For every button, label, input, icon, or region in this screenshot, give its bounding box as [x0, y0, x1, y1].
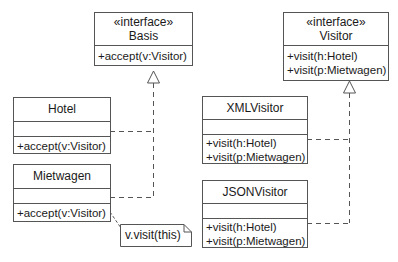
- stereotype-label: «interface»: [284, 15, 388, 29]
- class-hotel-attributes: [14, 121, 110, 136]
- class-basis[interactable]: «interface» Basis +accept(v:Visitor): [94, 12, 193, 66]
- class-jsonvisitor-header: JSONVisitor: [203, 181, 307, 203]
- class-name: Basis: [95, 29, 192, 43]
- class-mietwagen-attributes: [14, 188, 110, 203]
- method: +accept(v:Visitor): [14, 139, 110, 153]
- method: +visit(p:Mietwagen): [284, 63, 388, 77]
- class-visitor-header: «interface» Visitor: [284, 13, 388, 45]
- class-mietwagen-methods: +accept(v:Visitor): [14, 203, 110, 221]
- class-hotel-header: Hotel: [14, 98, 110, 121]
- class-xmlvisitor[interactable]: XMLVisitor +visit(h:Hotel) +visit(p:Miet…: [202, 96, 308, 164]
- class-xmlvisitor-methods: +visit(h:Hotel) +visit(p:Mietwagen): [203, 134, 307, 163]
- visitor-realization-arrowhead: [344, 81, 356, 93]
- class-jsonvisitor-methods: +visit(h:Hotel) +visit(p:Mietwagen): [203, 218, 307, 247]
- method: +visit(p:Mietwagen): [203, 150, 307, 164]
- class-jsonvisitor[interactable]: JSONVisitor +visit(h:Hotel) +visit(p:Mie…: [202, 180, 308, 248]
- class-xmlvisitor-attributes: [203, 119, 307, 134]
- method: +visit(p:Mietwagen): [203, 234, 307, 248]
- class-name: Visitor: [284, 29, 388, 43]
- method: +visit(h:Hotel): [203, 136, 307, 150]
- note-visit-this: v.visit(this): [121, 225, 185, 247]
- class-name: Mietwagen: [14, 169, 110, 183]
- class-name: XMLVisitor: [203, 101, 307, 115]
- class-hotel-methods: +accept(v:Visitor): [14, 136, 110, 153]
- method: +visit(h:Hotel): [284, 49, 388, 63]
- class-hotel[interactable]: Hotel +accept(v:Visitor): [13, 97, 111, 154]
- class-name: Hotel: [14, 102, 110, 116]
- method: +accept(v:Visitor): [95, 49, 192, 63]
- class-mietwagen[interactable]: Mietwagen +accept(v:Visitor): [13, 164, 111, 222]
- class-mietwagen-header: Mietwagen: [14, 165, 110, 188]
- class-visitor-methods: +visit(h:Hotel) +visit(p:Mietwagen): [284, 45, 388, 80]
- stereotype-label: «interface»: [95, 15, 192, 29]
- class-jsonvisitor-attributes: [203, 203, 307, 218]
- basis-realization-arrowhead: [148, 71, 160, 83]
- class-visitor[interactable]: «interface» Visitor +visit(h:Hotel) +vis…: [283, 12, 389, 81]
- method: +visit(h:Hotel): [203, 220, 307, 234]
- note-anchor-line: [110, 212, 121, 228]
- method: +accept(v:Visitor): [14, 206, 110, 220]
- note-text: v.visit(this): [125, 228, 181, 242]
- class-basis-header: «interface» Basis: [95, 13, 192, 45]
- class-name: JSONVisitor: [203, 185, 307, 199]
- class-xmlvisitor-header: XMLVisitor: [203, 97, 307, 119]
- class-basis-methods: +accept(v:Visitor): [95, 45, 192, 65]
